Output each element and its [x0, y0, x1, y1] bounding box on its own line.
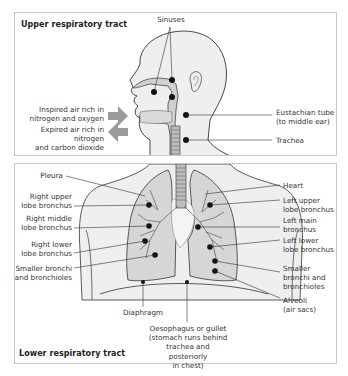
label-left-lower-lobe-bronchus: Left lower lobe bronchus [283, 236, 337, 254]
label-inspired-air: Inspired air rich in nitrogen and oxygen [16, 105, 104, 123]
label-eustachian-tube: Eustachian tube (to middle ear) [276, 108, 336, 126]
label-smaller-bronchi-left: Smaller bronchi and bronchioles [14, 264, 72, 282]
label-right-lower-lobe-bronchus: Right lower lobe bronchus [16, 240, 72, 258]
label-smaller-bronchi-right: Smaller bronchi and bronchioles [283, 264, 337, 292]
label-heart: Heart [283, 181, 337, 190]
thorax-illustration [66, 164, 302, 322]
label-diaphragm: Diaphragm [115, 308, 171, 317]
label-oesophagus: Oesophagus or gullet (stomach runs behin… [146, 324, 230, 370]
head-illustration [108, 27, 272, 160]
label-expired-air: Expired air rich in nitrogen and carbon … [16, 125, 104, 153]
label-right-middle-lobe-bronchus: Right middle lobe bronchus [16, 214, 72, 232]
expired-air-arrow-icon [108, 122, 128, 142]
label-left-upper-lobe-bronchus: Left upper lobe bronchus [283, 196, 337, 214]
lower-tract-title: Lower respiratory tract [19, 349, 125, 358]
label-alveoli: Alveoli (air sacs) [283, 296, 337, 314]
label-right-upper-lobe-bronchus: Right upper lobe bronchus [16, 192, 72, 210]
label-sinuses: Sinuses [153, 15, 189, 24]
label-trachea: Trachea [276, 136, 336, 145]
upper-tract-title: Upper respiratory tract [21, 20, 127, 29]
label-left-main-bronchus: Left main bronchus [283, 216, 337, 234]
label-pleura: Pleura [16, 171, 63, 180]
